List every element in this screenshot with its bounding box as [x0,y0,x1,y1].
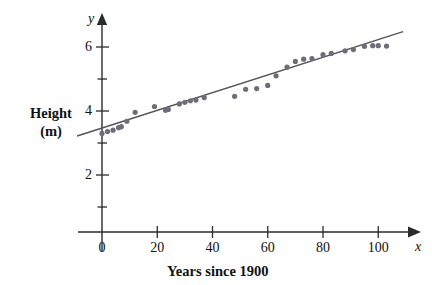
y-tick-label: 4 [78,104,92,118]
y-axis-title-line1: Height [14,104,88,122]
x-tick-label: 100 [367,241,390,255]
data-point [370,43,375,48]
y-axis-title-line2: (m) [14,122,88,140]
data-point [188,98,193,103]
data-point [232,94,237,99]
data-point [273,73,278,78]
data-point [329,51,334,56]
x-tick-label: 40 [205,241,220,255]
data-point [376,43,381,48]
data-point [384,43,389,48]
x-tick-label: 80 [315,241,330,255]
data-point [133,110,138,115]
y-tick-label: 6 [78,40,92,54]
data-point [119,124,124,129]
x-tick-label: 20 [150,241,165,255]
data-point [193,98,198,103]
data-point [202,95,207,100]
data-point [124,119,129,124]
x-axis-variable-label: x [415,240,421,254]
data-point [110,128,115,133]
data-point [177,101,182,106]
data-point [320,52,325,57]
y-axis-title: Height (m) [14,104,88,140]
data-point [265,83,270,88]
x-axis-arrowhead [408,227,421,238]
data-point [362,44,367,49]
data-point [105,129,110,134]
data-point [301,57,306,62]
data-point [351,47,356,52]
data-point [343,48,348,53]
axes-group [78,13,421,252]
data-point [293,59,298,64]
y-axis-variable-label: y [88,12,94,26]
y-tick-label: 2 [78,168,92,182]
data-point [254,86,259,91]
data-point [182,100,187,105]
data-point [166,107,171,112]
data-point [284,65,289,70]
data-point-group [99,43,389,136]
data-point [152,104,157,109]
data-point [243,87,248,92]
data-point [99,131,104,136]
y-axis-arrowhead [97,13,107,25]
x-axis-caption: Years since 1900 [167,264,269,279]
scatter-plot-figure: Height (m) Years since 1900 x y 02040608… [0,0,432,285]
x-tick-label: 60 [260,241,275,255]
x-tick-label: 0 [98,241,106,255]
data-point [309,56,314,61]
